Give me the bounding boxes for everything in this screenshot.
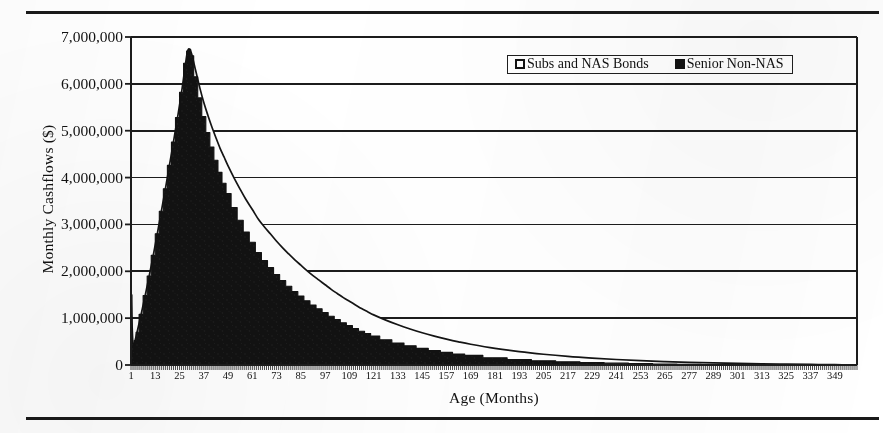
- y-axis-title: Monthly Cashflows ($): [39, 74, 57, 324]
- x-axis-tick-label: 217: [560, 371, 576, 382]
- x-axis-tick-label: 289: [706, 371, 722, 382]
- legend-item-subs-and-nas-bonds[interactable]: Subs and NAS Bonds: [515, 57, 649, 71]
- x-axis-tick-labels: 1132537496173859710912113314515716918119…: [0, 371, 883, 389]
- x-axis-tick-label: 265: [657, 371, 673, 382]
- legend-label: Subs and NAS Bonds: [527, 57, 649, 71]
- top-rule: [26, 11, 879, 14]
- x-axis-tick-label: 277: [681, 371, 697, 382]
- x-axis-tick-label: 25: [174, 371, 185, 382]
- x-axis-tick-label: 349: [827, 371, 843, 382]
- x-axis-tick-label: 85: [296, 371, 307, 382]
- x-axis-tick-label: 205: [536, 371, 552, 382]
- x-axis-tick-label: 193: [511, 371, 527, 382]
- y-axis-tick-label: 2,000,000: [5, 264, 123, 280]
- x-axis-tick-label: 1: [128, 371, 133, 382]
- y-axis-tick-label: 1,000,000: [5, 310, 123, 326]
- x-axis-tick-label: 49: [223, 371, 234, 382]
- x-axis-tick-label: 325: [778, 371, 794, 382]
- y-axis-tick-label: 5,000,000: [5, 123, 123, 139]
- x-axis-tick-label: 313: [754, 371, 770, 382]
- x-axis-tick-label: 97: [320, 371, 331, 382]
- filled-square-icon: [675, 59, 685, 69]
- x-axis-tick-label: 337: [803, 371, 819, 382]
- x-axis-tick-label: 181: [487, 371, 503, 382]
- bottom-rule: [26, 417, 879, 420]
- x-axis-tick-label: 133: [390, 371, 406, 382]
- x-axis-tick-label: 241: [608, 371, 624, 382]
- figure-container: 01,000,0002,000,0003,000,0004,000,0005,0…: [0, 0, 883, 433]
- legend-item-senior-non-nas[interactable]: Senior Non-NAS: [675, 57, 784, 71]
- x-axis-tick-label: 109: [342, 371, 358, 382]
- x-axis-tick-label: 145: [414, 371, 430, 382]
- x-axis-tick-label: 37: [199, 371, 210, 382]
- x-axis-tick-label: 301: [730, 371, 746, 382]
- y-axis-tick-label: 6,000,000: [5, 76, 123, 92]
- x-axis-tick-label: 13: [150, 371, 161, 382]
- x-axis-tick-label: 253: [633, 371, 649, 382]
- x-axis-tick-label: 61: [247, 371, 258, 382]
- x-axis-tick-label: 229: [584, 371, 600, 382]
- chart-legend[interactable]: Subs and NAS Bonds Senior Non-NAS: [507, 55, 793, 74]
- y-axis-tick-labels: 01,000,0002,000,0003,000,0004,000,0005,0…: [0, 0, 123, 433]
- x-axis-tick-label: 121: [366, 371, 382, 382]
- hollow-square-icon: [515, 59, 525, 69]
- y-axis-tick-label: 3,000,000: [5, 217, 123, 233]
- x-axis-tick-label: 169: [463, 371, 479, 382]
- y-axis-tick-label: 7,000,000: [5, 29, 123, 45]
- x-axis-tick-label: 73: [271, 371, 282, 382]
- x-axis-tick-label: 157: [439, 371, 455, 382]
- x-axis-title: Age (Months): [131, 389, 857, 407]
- legend-label: Senior Non-NAS: [687, 57, 784, 71]
- y-axis-tick-label: 4,000,000: [5, 170, 123, 186]
